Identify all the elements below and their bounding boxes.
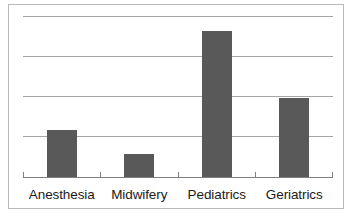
chart-frame-border: Anesthesia Midwifery Pediatrics Geriatri… — [8, 4, 344, 209]
bar-geriatrics — [279, 98, 309, 178]
category-label-anesthesia: Anesthesia — [23, 180, 101, 208]
bar-pediatrics — [202, 31, 232, 178]
axis-tick-3 — [255, 172, 256, 178]
category-label-row: Anesthesia Midwifery Pediatrics Geriatri… — [23, 180, 333, 208]
axis-tick-2 — [178, 172, 179, 178]
axis-tick-start — [23, 172, 24, 178]
axis-tick-end — [332, 172, 333, 178]
plot-area — [23, 15, 333, 178]
axis-tick-1 — [100, 172, 101, 178]
bar-midwifery — [124, 154, 154, 178]
bar-chart-figure: Anesthesia Midwifery Pediatrics Geriatri… — [0, 0, 354, 219]
bar-anesthesia — [47, 130, 77, 178]
category-label-geriatrics: Geriatrics — [256, 180, 334, 208]
category-label-midwifery: Midwifery — [101, 180, 179, 208]
category-label-pediatrics: Pediatrics — [178, 180, 256, 208]
bars-layer — [23, 15, 333, 178]
